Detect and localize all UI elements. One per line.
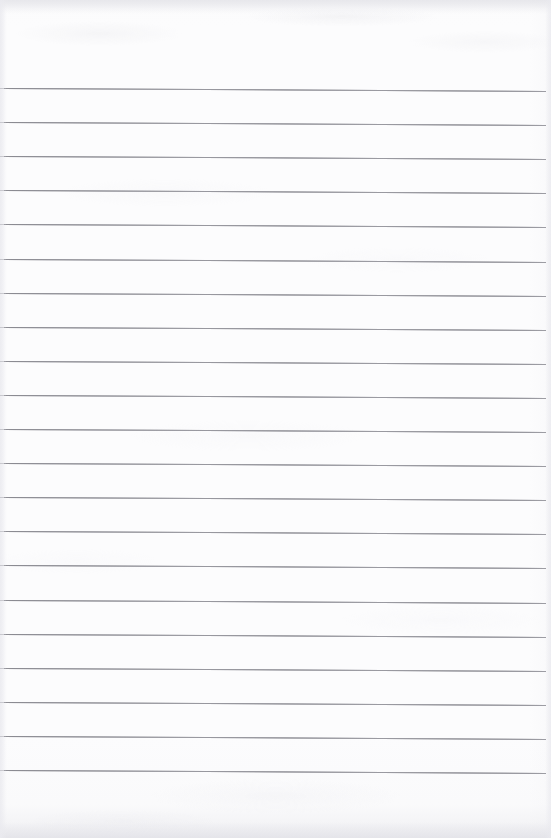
ruled-line xyxy=(4,463,546,467)
ruled-line-group xyxy=(0,0,551,838)
ruled-line xyxy=(4,429,546,433)
ruled-line xyxy=(4,224,546,228)
ruled-line xyxy=(4,497,546,501)
ruled-line xyxy=(4,259,546,263)
ruled-line xyxy=(4,668,546,672)
ruled-line xyxy=(4,190,546,194)
paper-grain-texture xyxy=(0,0,551,838)
ruled-line xyxy=(4,327,546,331)
ruled-line xyxy=(4,361,546,365)
scanned-page xyxy=(0,0,551,838)
ruled-line xyxy=(4,88,546,92)
ruled-line xyxy=(4,293,546,297)
ruled-line xyxy=(4,770,546,774)
ruled-line xyxy=(4,122,546,126)
ruled-line xyxy=(4,736,546,740)
paper-surface xyxy=(0,0,551,838)
right-edge-scan-band xyxy=(545,0,551,838)
top-edge-scan-band xyxy=(0,0,551,14)
ruled-line xyxy=(4,156,546,160)
ruled-line xyxy=(4,395,546,399)
ruled-line xyxy=(4,565,546,569)
bottom-edge-scan-band xyxy=(0,822,551,838)
ruled-line xyxy=(4,600,546,604)
left-edge-scan-band xyxy=(0,0,7,838)
ruled-line xyxy=(4,634,546,638)
ruled-line xyxy=(4,531,546,535)
ruled-line xyxy=(4,702,546,706)
